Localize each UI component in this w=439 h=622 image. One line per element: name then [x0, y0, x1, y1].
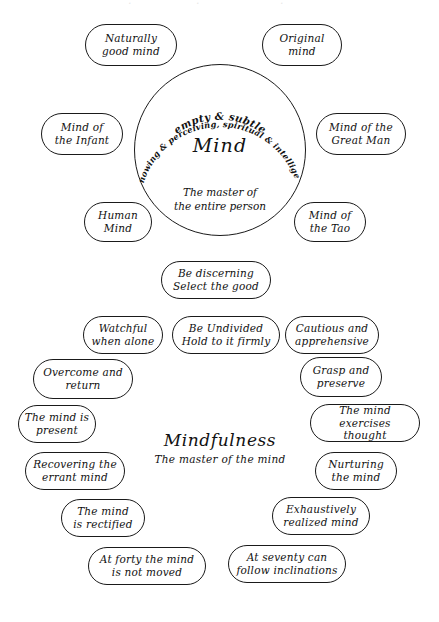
- mind-arc-line-2: knowing & perceiving, spiritual & intell…: [131, 56, 303, 184]
- node-label: Mind of the Tao: [309, 209, 352, 235]
- node-label: At forty the mind is not moved: [100, 553, 194, 579]
- node-the-mind-is-rectified[interactable]: The mind is rectified: [61, 499, 145, 537]
- node-label: Be Undivided Hold to it firmly: [182, 322, 271, 348]
- node-at-seventy-can-follow-inclinations[interactable]: At seventy can follow inclinations: [228, 545, 346, 583]
- node-label: Watchful when alone: [92, 322, 155, 348]
- node-grasp-and-preserve[interactable]: Grasp and preserve: [300, 357, 382, 397]
- node-the-mind-is-present[interactable]: The mind is present: [18, 405, 96, 443]
- node-label: At seventy can follow inclinations: [236, 551, 337, 577]
- node-label: The mind is rectified: [73, 505, 132, 531]
- node-label: Mind of the Infant: [55, 121, 110, 147]
- node-exhaustively-realized-mind[interactable]: Exhaustively realized mind: [272, 497, 370, 535]
- node-the-mind-exercises-thought[interactable]: The mind exercises thought: [310, 404, 420, 442]
- node-nurturing-the-mind[interactable]: Nurturing the mind: [315, 452, 397, 490]
- node-mind-of-the-great-man[interactable]: Mind of the Great Man: [316, 113, 406, 155]
- node-overcome-and-return[interactable]: Overcome and return: [33, 359, 133, 399]
- node-recovering-the-errant-mind[interactable]: Recovering the errant mind: [25, 452, 125, 490]
- node-label: Mind of the Great Man: [329, 121, 393, 147]
- node-mind-of-the-tao[interactable]: Mind of the Tao: [294, 202, 366, 242]
- node-label: The mind exercises thought: [316, 404, 414, 442]
- node-label: Grasp and preserve: [313, 364, 370, 390]
- diagram-canvas: ... empty & subtle knowing & perceiving,…: [0, 0, 439, 622]
- node-label: Overcome and return: [43, 366, 123, 392]
- node-watchful-when-alone[interactable]: Watchful when alone: [83, 316, 163, 354]
- node-label: Human Mind: [98, 209, 138, 235]
- node-naturally-good-mind[interactable]: Naturally good mind: [85, 24, 177, 66]
- node-be-discerning[interactable]: Be discerning Select the good: [161, 261, 271, 299]
- node-label: Cautious and apprehensive: [295, 322, 369, 348]
- node-label: Original mind: [279, 32, 324, 58]
- node-label: Naturally good mind: [102, 32, 160, 58]
- cropped-header-artifact: ...: [0, 0, 439, 10]
- node-mind-of-the-infant[interactable]: Mind of the Infant: [41, 113, 123, 155]
- node-label: Exhaustively realized mind: [283, 503, 358, 529]
- node-label: Recovering the errant mind: [33, 458, 117, 484]
- node-be-undivided[interactable]: Be Undivided Hold to it firmly: [172, 316, 280, 354]
- node-label: Nurturing the mind: [328, 458, 384, 484]
- node-at-forty-the-mind-is-not-moved[interactable]: At forty the mind is not moved: [88, 547, 206, 585]
- node-label: The mind is present: [25, 411, 89, 437]
- mind-center-subtitle: The master of the entire person: [134, 186, 306, 213]
- node-human-mind[interactable]: Human Mind: [84, 202, 152, 242]
- node-original-mind[interactable]: Original mind: [262, 24, 342, 66]
- mind-center-title: Mind: [134, 134, 306, 156]
- mindfulness-subtitle: The master of the mind: [110, 453, 330, 465]
- node-label: Be discerning Select the good: [173, 267, 259, 293]
- mindfulness-title: Mindfulness: [120, 430, 320, 450]
- node-cautious-and-apprehensive[interactable]: Cautious and apprehensive: [285, 316, 379, 354]
